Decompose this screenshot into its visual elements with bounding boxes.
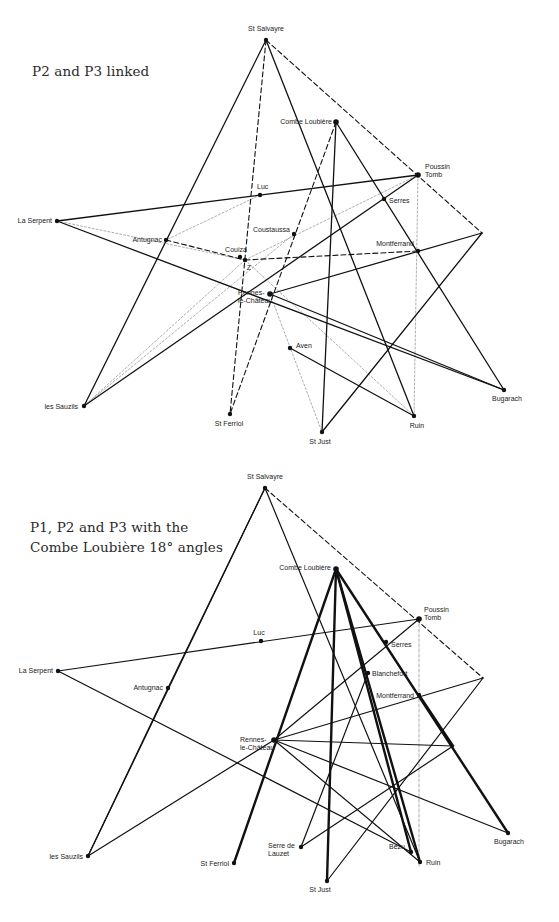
site-marker-bezu (409, 850, 413, 854)
site-marker-la-serpent (56, 669, 60, 673)
site-label-rennes-le-chateau: Rennes- (240, 736, 267, 743)
site-marker-coustaussa (292, 232, 296, 236)
site-marker-serre-de-lauzet (299, 845, 303, 849)
site-label-rennes-le-chateau-line2: le-Château (240, 744, 274, 751)
site-marker-les-sauzils (86, 854, 90, 858)
pentagram-line (57, 175, 418, 221)
site-label-montferrand: Montferrand (376, 240, 414, 247)
site-marker-st-ferriol (228, 412, 232, 416)
site-marker-serres (382, 197, 386, 201)
site-label-serres: Serres (391, 641, 412, 648)
dashed-alignment-line (266, 40, 482, 233)
site-label-st-just: St Just (309, 438, 330, 445)
angle-line-18deg (327, 569, 336, 881)
site-label-luc: Luc (253, 629, 265, 636)
dotted-alignment-line (84, 234, 294, 406)
site-marker-ruin (418, 860, 422, 864)
site-label-les-sauzils: les Sauzils (45, 403, 79, 410)
angle-line-18deg (336, 569, 411, 852)
site-label-poussin-tomb-line2: Tomb (424, 614, 441, 621)
site-label-poussin-tomb-line2: Tomb (425, 171, 442, 178)
pentagram-line (274, 740, 453, 746)
pentagram-line (290, 348, 414, 416)
angle-line-18deg (234, 569, 336, 863)
site-marker-bugarach (502, 388, 506, 392)
site-marker-ruin (412, 414, 416, 418)
site-marker-bugarach (506, 831, 510, 835)
pentagram-line (168, 488, 265, 688)
dashed-alignment-line (265, 488, 483, 678)
site-marker-serres (384, 640, 388, 644)
site-label-ruin: Ruin (410, 422, 425, 429)
site-marker-combe-loubiere (333, 566, 339, 572)
site-marker-st-just (325, 879, 329, 883)
site-label-combe-loubiere: Combe Loubière (280, 118, 332, 125)
pentagram-line (58, 619, 419, 671)
site-label-couiza: Couiza (225, 246, 247, 253)
site-label-bezu: Bezu (389, 843, 405, 850)
site-label-st-salvayre: St Salvayre (247, 473, 283, 481)
pentagram-line (301, 673, 368, 847)
pentagram-line (336, 122, 504, 390)
site-label-poussin-tomb: Poussin (424, 606, 449, 613)
site-label-serres: Serres (389, 197, 410, 204)
site-label-st-just: St Just (309, 886, 330, 893)
site-label-aven: Aven (296, 342, 312, 349)
site-label-antugnac: Antugnac (133, 684, 163, 692)
dotted-alignment-line (84, 260, 245, 406)
site-label-antugnac: Antugnac (132, 236, 162, 244)
dotted-alignment-line (270, 294, 322, 432)
site-label-z: Z (247, 264, 252, 271)
pentagram-line (322, 233, 482, 432)
site-label-st-ferriol: St Ferriol (201, 860, 230, 867)
site-marker-poussin-tomb (416, 616, 422, 622)
site-label-luc: Luc (257, 183, 269, 190)
dotted-alignment-line (245, 260, 414, 416)
site-label-bugarach: Bugarach (494, 838, 524, 846)
pentagram-line (327, 678, 483, 881)
site-label-ruin: Ruin (426, 859, 441, 866)
site-marker-rennes-le-chateau (271, 737, 277, 743)
site-marker-montferrand (417, 693, 421, 697)
site-marker-les-sauzils (82, 404, 86, 408)
site-marker-montferrand (416, 249, 420, 253)
site-marker-st-salvayre (264, 38, 268, 42)
site-marker-luc (258, 193, 262, 197)
site-label-serre-de-lauzet-line2: Lauzet (268, 850, 289, 857)
pentagram-diagrams: St SalvayreCombe LoubièrePoussinTombLucL… (0, 0, 559, 922)
site-marker-combe-loubiere (333, 119, 339, 125)
site-label-rennes-le-chateau: Rennes- (238, 289, 265, 296)
pentagram-line (84, 40, 266, 406)
site-marker-couiza (238, 255, 242, 259)
site-marker-antugnac (166, 686, 170, 690)
site-label-coustaussa: Coustaussa (253, 226, 290, 233)
site-marker-st-ferriol (232, 861, 236, 865)
site-label-la-serpent: La Serpent (19, 667, 53, 675)
site-label-montferrand: Montferrand (376, 692, 414, 699)
site-label-st-ferriol: St Ferriol (215, 420, 244, 427)
pentagram-line (301, 746, 453, 847)
site-marker-rennes-le-chateau (267, 291, 273, 297)
site-marker-z (243, 258, 247, 262)
site-label-serre-de-lauzet: Serre de (268, 842, 295, 849)
site-marker-st-salvayre (263, 486, 267, 490)
site-label-blanchefort: Blanchefort (372, 670, 407, 677)
site-marker-luc (259, 639, 263, 643)
site-label-st-salvayre: St Salvayre (248, 25, 284, 33)
site-marker-aven (288, 346, 292, 350)
site-marker-blanchefort (366, 671, 370, 675)
site-marker-st-just (320, 430, 324, 434)
site-label-bugarach: Bugarach (492, 395, 522, 403)
site-marker-poussin-tomb (415, 172, 421, 178)
dotted-alignment-line (414, 175, 418, 416)
site-label-rennes-le-chateau-line2: le-Château (238, 297, 272, 304)
site-label-la-serpent: La Serpent (18, 217, 52, 225)
site-label-les-sauzils: les Sauzils (50, 853, 84, 860)
site-label-poussin-tomb: Poussin (425, 163, 450, 170)
site-marker-antugnac (164, 238, 168, 242)
site-marker-la-serpent (55, 219, 59, 223)
site-label-combe-loubiere: Combe Loubière (279, 564, 331, 571)
